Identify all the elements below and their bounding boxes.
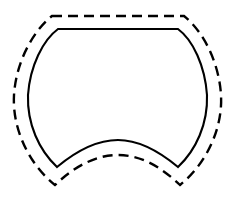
- outline-figure-svg: [0, 0, 238, 199]
- figure-canvas: [0, 0, 238, 199]
